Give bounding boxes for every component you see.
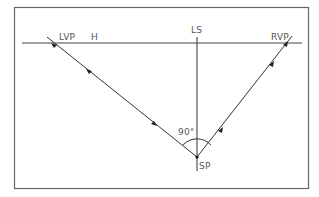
arrow-icon — [86, 69, 92, 74]
arrow-icon — [151, 121, 157, 126]
station-point-label: SP — [199, 161, 211, 171]
horizon-label: H — [91, 32, 98, 42]
angle-label: 90° — [178, 127, 195, 137]
right-vanishing-line — [197, 36, 292, 157]
station-point-dot — [195, 155, 198, 158]
left-vanishing-line — [47, 37, 197, 157]
lvp-label: LVP — [59, 32, 76, 42]
rvp-label: RVP — [271, 32, 289, 42]
perspective-diagram: LVP H LS RVP 90° SP — [0, 0, 319, 197]
line-of-sight-label: LS — [191, 25, 202, 35]
